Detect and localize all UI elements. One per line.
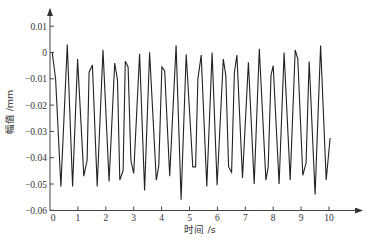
y-tick-label: −0.04 (25, 153, 47, 163)
plot-area (52, 45, 330, 200)
y-tick-label: 0.01 (30, 22, 47, 32)
x-tick-label: 1 (76, 213, 81, 223)
x-axis: 012345678910 (50, 207, 362, 224)
amplitude-series-line (52, 45, 330, 200)
y-tick-label: −0.03 (25, 127, 47, 137)
y-axis: 0.010−0.01−0.02−0.03−0.04−0.05−0.06 (25, 9, 54, 216)
y-axis-title: 幅值 /mm (4, 90, 15, 135)
x-tick-label: 0 (51, 213, 56, 223)
amplitude-time-chart: 0.010−0.01−0.02−0.03−0.04−0.05−0.06 0123… (0, 0, 367, 241)
x-tick-label: 4 (159, 213, 164, 223)
x-tick-label: 10 (324, 213, 334, 223)
y-tick-label: −0.05 (25, 180, 47, 190)
x-tick-label: 2 (103, 213, 108, 223)
x-tick-label: 3 (131, 213, 136, 223)
y-tick-label: −0.02 (25, 101, 47, 111)
y-tick-label: −0.06 (25, 206, 47, 216)
y-tick-label: −0.01 (25, 74, 47, 84)
x-tick-label: 8 (271, 213, 276, 223)
x-tick-label: 5 (187, 213, 192, 223)
x-ticks: 012345678910 (51, 207, 334, 224)
x-axis-title: 时间 /s (184, 224, 215, 235)
x-tick-label: 9 (299, 213, 304, 223)
x-tick-label: 7 (243, 213, 248, 223)
x-tick-label: 6 (215, 213, 220, 223)
y-tick-label: 0 (42, 48, 47, 58)
